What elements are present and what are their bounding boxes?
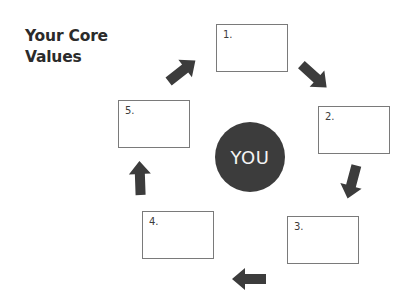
arrow-down-icon [337,163,367,202]
arrow-left-icon [232,268,266,290]
arrow-down-right-icon [294,56,334,95]
cycle-arrows [0,0,408,301]
arrow-up-icon [128,161,151,196]
arrow-up-right-icon [162,52,202,90]
